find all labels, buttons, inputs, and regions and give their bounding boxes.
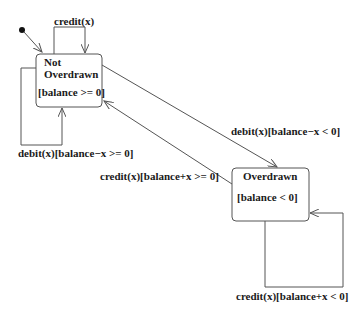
transition-label-debit-self: debit(x)[balance−x >= 0] — [18, 147, 133, 159]
transition-label-credit-overdrawn-self: credit(x)[balance+x < 0] — [236, 290, 349, 302]
transition-credit-overdrawn-self-loop — [265, 213, 343, 287]
state-overdrawn-name: Overdrawn — [243, 170, 297, 182]
transition-label-credit: credit(x) — [54, 15, 94, 27]
transition-credit-self-loop — [54, 27, 85, 54]
transition-label-debit-to-overdrawn: debit(x)[balance−x < 0] — [231, 125, 340, 137]
state-not-overdrawn-invariant: [balance >= 0] — [38, 86, 105, 98]
state-not-overdrawn-name-line1: Not — [44, 56, 61, 68]
state-not-overdrawn-name-line2: Overdrawn — [44, 68, 98, 80]
diagram-canvas — [0, 0, 360, 318]
initial-transition-arrow — [24, 32, 42, 52]
transition-label-credit-to-not-overdrawn: credit(x)[balance+x >= 0] — [100, 170, 219, 182]
state-overdrawn-invariant: [balance < 0] — [237, 191, 298, 203]
